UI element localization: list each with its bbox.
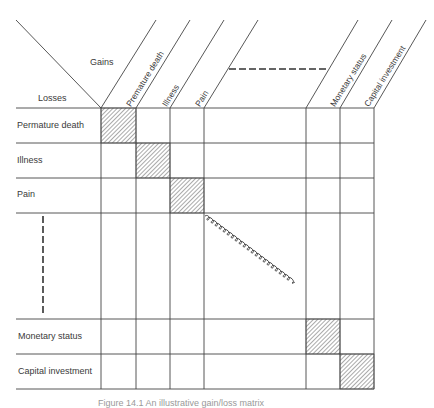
- row-label-premature-death: Permature death: [17, 120, 84, 130]
- row-label-illness: Illness: [17, 155, 43, 165]
- row-label-capital-investment: Capital investment: [18, 366, 92, 376]
- figure-caption: Figure 14.1 An illustrative gain/loss ma…: [98, 398, 264, 408]
- gains-label: Gains: [90, 57, 114, 67]
- row-label-monetary-status: Monetary status: [18, 331, 82, 341]
- hatched-cells: [101, 108, 374, 389]
- row-label-pain: Pain: [17, 189, 35, 199]
- diagonal-coil: [205, 215, 295, 283]
- losses-label: Losses: [38, 93, 67, 103]
